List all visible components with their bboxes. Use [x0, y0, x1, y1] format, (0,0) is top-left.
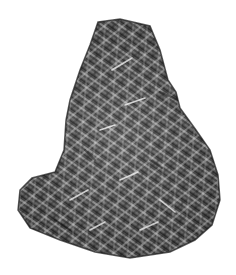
meteorite-specimen: [0, 0, 236, 275]
meteorite-image: meteorite slice with Widmanstätten patte…: [0, 0, 236, 275]
